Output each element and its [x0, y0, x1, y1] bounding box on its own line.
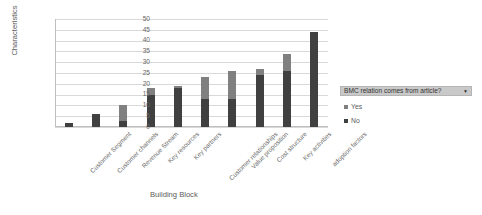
x-tick-label: Customer relationships — [228, 131, 279, 182]
x-tick-label: adoption factors — [332, 131, 369, 168]
legend: BMC relation comes from article? ▼ Yes N… — [340, 86, 472, 124]
legend-label-no: No — [351, 117, 360, 124]
legend-title-text: BMC relation comes from article? — [344, 86, 441, 96]
legend-swatch-no-icon — [344, 119, 348, 123]
legend-label-yes: Yes — [351, 103, 362, 110]
legend-item-yes[interactable]: Yes — [340, 103, 472, 110]
chart-container: Characteristics Building Block 051015202… — [0, 0, 482, 215]
chevron-down-icon: ▼ — [463, 86, 468, 96]
legend-swatch-yes-icon — [344, 105, 348, 109]
legend-filter-button[interactable]: BMC relation comes from article? ▼ — [340, 86, 472, 96]
legend-item-no[interactable]: No — [340, 117, 472, 124]
